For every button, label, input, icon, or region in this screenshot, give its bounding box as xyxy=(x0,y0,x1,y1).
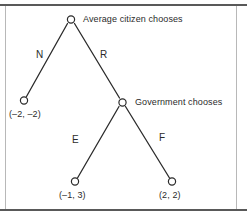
government-player-label: Government chooses xyxy=(135,97,222,107)
action-label-n: N xyxy=(36,49,43,60)
node-leaf-n xyxy=(20,97,27,104)
payoff-label-n: (–2, –2) xyxy=(9,109,41,119)
payoff-label-e: (–1, 3) xyxy=(59,190,86,200)
root-player-label: Average citizen chooses xyxy=(83,14,183,24)
edge-gov-to-leaf-e xyxy=(78,107,120,179)
action-label-f: F xyxy=(159,132,165,143)
game-tree-figure: Average citizen chooses Government choos… xyxy=(0,0,247,224)
node-root xyxy=(67,16,74,23)
action-label-r: R xyxy=(100,49,107,60)
node-leaf-f xyxy=(168,178,175,185)
edge-root-to-gov xyxy=(75,24,120,99)
node-government xyxy=(119,99,126,106)
node-leaf-e xyxy=(71,178,78,185)
action-label-e: E xyxy=(72,134,79,145)
payoff-label-f: (2, 2) xyxy=(159,190,181,200)
edge-root-to-leaf-n xyxy=(27,24,68,97)
